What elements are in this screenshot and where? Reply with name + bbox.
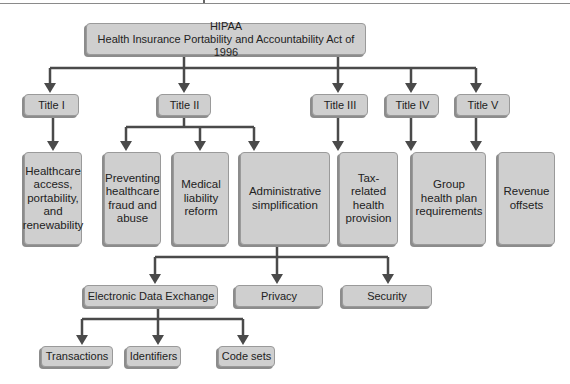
tax-related-box: Tax-related health provision <box>339 152 398 245</box>
electronic-data-exchange-box: Electronic Data Exchange <box>84 285 218 307</box>
text-line: Identifiers <box>130 350 178 363</box>
text-line: Medical <box>181 178 221 192</box>
identifiers-box: Identifiers <box>126 346 181 367</box>
code-sets-box: Code sets <box>218 346 275 367</box>
text-line: simplification <box>252 199 318 213</box>
transactions-box: Transactions <box>41 346 113 367</box>
title-iii-box: Title III <box>312 94 368 116</box>
text-line: healthcare <box>106 185 160 199</box>
privacy-box: Privacy <box>235 285 323 307</box>
preventing-fraud-box: Preventing healthcare fraud and abuse <box>104 152 161 245</box>
title-iii-label: Title III <box>324 99 357 112</box>
text-line: fraud and <box>108 199 157 213</box>
text-line: Code sets <box>222 350 272 363</box>
text-line: Revenue <box>503 185 549 199</box>
administrative-simplification-box: Administrative simplification <box>240 152 330 245</box>
text-line: reform <box>184 205 217 219</box>
text-line: abuse <box>117 212 148 226</box>
text-line: Group <box>433 178 465 192</box>
text-line: Electronic Data Exchange <box>88 290 215 303</box>
text-line: access, <box>34 178 73 192</box>
text-line: Preventing <box>105 172 160 186</box>
root-subtitle: Health Insurance Portability and Account… <box>87 33 365 59</box>
title-ii-box: Title II <box>158 94 211 116</box>
text-line: Security <box>367 290 407 303</box>
text-line: health <box>353 199 384 213</box>
text-line: health plan <box>421 192 477 206</box>
text-line: Transactions <box>46 350 109 363</box>
text-line: requirements <box>415 205 482 219</box>
title-i-box: Title I <box>24 94 79 116</box>
text-line: offsets <box>510 199 544 213</box>
text-line: provision <box>345 212 391 226</box>
title-i-label: Title I <box>38 99 65 112</box>
medical-liability-box: Medical liability reform <box>173 152 229 245</box>
title-iv-box: Title IV <box>386 94 439 116</box>
healthcare-access-box: Healthcare access, portability, and rene… <box>24 152 82 245</box>
title-v-label: Title V <box>468 99 499 112</box>
title-ii-label: Title II <box>170 99 200 112</box>
text-line: renewability <box>23 219 84 233</box>
text-line: Privacy <box>261 290 297 303</box>
title-v-box: Title V <box>456 94 510 116</box>
text-line: liability <box>184 192 219 206</box>
text-line: Tax-related <box>342 172 395 199</box>
hipaa-root-box: HIPAA Health Insurance Portability and A… <box>86 23 366 55</box>
security-box: Security <box>342 285 432 307</box>
revenue-offsets-box: Revenue offsets <box>498 152 555 245</box>
text-line: and <box>43 205 62 219</box>
title-iv-label: Title IV <box>396 99 430 112</box>
root-title: HIPAA <box>210 20 242 33</box>
text-line: Administrative <box>249 185 321 199</box>
text-line: Healthcare <box>25 165 81 179</box>
text-line: portability, <box>27 192 79 206</box>
group-health-plan-box: Group health plan requirements <box>412 152 486 245</box>
